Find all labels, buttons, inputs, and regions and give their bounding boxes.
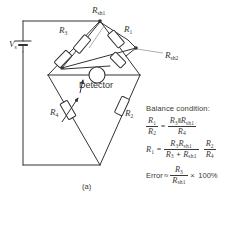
resistor-R1 <box>107 30 124 48</box>
label-Rsh1: Rsh1 <box>91 5 105 16</box>
eq1-rhs-numerator: R3‖Rsh1 <box>168 117 197 126</box>
error-times-symbol: × <box>190 171 194 180</box>
figure-root: Vs Rsh1 R3 R1 Rsh2 R4 R2 Detector <box>0 0 251 234</box>
eq2-f2-denominator: R4 <box>204 150 216 159</box>
leader-Rsh2 <box>137 49 163 53</box>
eq1-lhs-denominator: R2 <box>146 127 158 136</box>
eq2-relation: = <box>157 145 162 154</box>
balance-condition-panel: Balance condition: R1 R2 = R3‖Rsh1 R4 R1… <box>146 104 251 185</box>
resistor-R4 <box>60 98 78 122</box>
resistor-Rsh1 <box>73 34 91 53</box>
eq1-lhs-fraction: R1 R2 <box>146 117 158 136</box>
equation-R1-solution: R1 = R3Rsh1 R3+Rsh1 R2 R4 <box>146 140 251 159</box>
eq1-relation: = <box>161 122 166 131</box>
error-fraction: R3 Rsh1 <box>170 166 188 185</box>
eq2-second-fraction: R2 R4 <box>204 140 216 159</box>
eq1-rhs-denominator: R4 <box>176 127 188 136</box>
circuit-labels: Vs Rsh1 R3 R1 Rsh2 R4 R2 Detector <box>9 5 178 119</box>
eq2-first-fraction: R3Rsh1 R3+Rsh1 <box>164 140 199 159</box>
eq2-f1-numerator: R3Rsh1 <box>168 140 194 149</box>
shunt-tie-wire <box>62 48 136 68</box>
label-R2: R2 <box>124 108 134 119</box>
label-Rsh2: Rsh2 <box>164 50 178 61</box>
eq2-f2-numerator: R2 <box>204 140 216 149</box>
error-numerator: R3 <box>173 166 185 175</box>
leader-Rsh1 <box>89 26 104 48</box>
figure-part-label: (a) <box>82 182 91 191</box>
label-R4: R4 <box>49 107 59 118</box>
eq2-f1-denominator: R3+Rsh1 <box>164 150 199 159</box>
shunt2-wire-lower <box>64 66 110 69</box>
error-label: Error <box>146 171 163 180</box>
eq2-lhs: R1 <box>146 145 154 154</box>
balance-condition-title: Balance condition: <box>146 104 251 113</box>
node-top <box>98 19 102 23</box>
eq1-rhs-fraction: R3‖Rsh1 R4 <box>168 117 197 136</box>
error-percent-value: 100% <box>198 171 217 180</box>
eq1-lhs-numerator: R1 <box>146 117 158 126</box>
error-relation: ≈ <box>164 171 168 180</box>
resistor-R3 <box>54 50 72 68</box>
equation-error: Error ≈ R3 Rsh1 × 100% <box>146 166 251 185</box>
label-R3: R3 <box>58 25 68 36</box>
error-denominator: Rsh1 <box>170 176 188 185</box>
label-R1: R1 <box>123 24 133 35</box>
bridge-outline <box>48 21 140 165</box>
label-detector: Detector <box>79 80 113 90</box>
equation-balance-ratio: R1 R2 = R3‖Rsh1 R4 <box>146 117 251 136</box>
